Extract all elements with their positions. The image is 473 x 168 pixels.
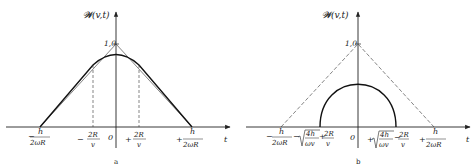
tick-right-inner: + 2R v [125,131,146,149]
svg-text:h: h [190,127,195,136]
x-axis-label: t [224,135,228,144]
svg-text:h: h [433,127,438,136]
svg-text:2ωR: 2ωR [182,141,199,149]
svg-text:v: v [137,141,141,149]
peak-label: 1,0 [345,39,357,48]
tick-left-inner: − 2R v [77,131,100,149]
origin-label: 0 [108,133,113,142]
svg-text:ωv: ωv [305,140,315,148]
svg-text:2ωR: 2ωR [425,141,442,149]
svg-text:2R: 2R [87,131,98,139]
svg-text:+: + [176,135,183,144]
tick-right-outer: + h 2ωR [419,127,446,149]
svg-text:4h: 4h [305,130,315,138]
figure: 𝓦(v,t) 1,0 t 0 − h 2ωR − 2R v + 2R v + h [0,0,473,168]
tick-right-inner: + 4h ωv − 2R v [367,131,409,149]
svg-text:4h: 4h [379,131,389,139]
svg-text:v: v [91,141,95,149]
svg-text:−: − [77,135,84,144]
svg-text:2ωR: 2ωR [29,139,46,147]
x-axis-label: t [466,135,470,144]
caption-b: b [356,158,361,166]
peak-label: 1,0 [104,39,116,48]
panel-b: 𝓦(v,t) 1,0 t 0 − h 2ωR − 4h ωv + 2R v + … [246,10,470,166]
tick-left-outer: − h 2ωR [266,127,292,147]
svg-text:h: h [38,127,43,136]
triangle-envelope [281,44,434,127]
svg-text:2R: 2R [133,131,144,139]
svg-text:v: v [326,140,330,148]
tick-right-outer: + h 2ωR [176,127,203,149]
svg-text:h: h [279,127,284,136]
tick-left-inner: − 4h ωv + 2R v [293,130,334,148]
svg-text:+: + [367,135,374,144]
svg-text:2R: 2R [323,130,334,138]
origin-label: 0 [350,133,355,142]
svg-text:v: v [401,141,405,149]
svg-text:+: + [125,135,132,144]
y-axis-label: 𝓦(v,t) [322,10,349,20]
svg-text:+: + [419,135,426,144]
y-axis-label: 𝓦(v,t) [83,10,110,20]
tick-left-outer: − h 2ωR [28,127,50,147]
caption-a: a [114,158,118,166]
panel-a: 𝓦(v,t) 1,0 t 0 − h 2ωR − 2R v + 2R v + h [6,10,230,166]
svg-text:2R: 2R [398,131,409,139]
svg-text:2ωR: 2ωR [271,139,288,147]
svg-text:ωv: ωv [379,141,389,149]
